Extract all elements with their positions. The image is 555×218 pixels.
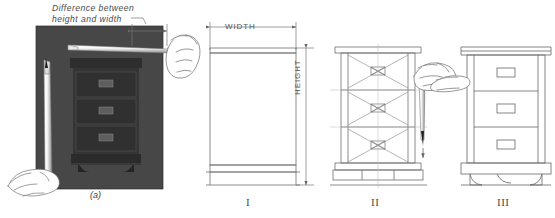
difference-note-line-1: Difference between	[52, 3, 134, 14]
panel-a-tag: (a)	[90, 190, 101, 200]
panel-iii-handle-1	[497, 68, 515, 77]
difference-note: Difference between height and width	[52, 3, 134, 24]
photo-handle-3	[99, 134, 113, 141]
panel-ii-guides	[330, 44, 427, 188]
photo-handle-1	[99, 80, 113, 87]
panel-i-tag: I	[246, 196, 250, 208]
panel-iii-chest	[461, 47, 551, 185]
panel-ii-plinth	[330, 163, 427, 185]
illustration-figure	[0, 0, 555, 218]
photo-handle-2	[99, 107, 113, 114]
panel-iii-foot-right	[530, 174, 542, 185]
panel-ii-drawing	[330, 44, 456, 188]
photo-plinth-shadow	[71, 163, 141, 165]
panel-i-drawing	[206, 22, 314, 185]
photo-hand-icon	[8, 169, 59, 196]
difference-note-line-2: height and width	[52, 14, 134, 25]
panel-iii-foot-left	[470, 174, 482, 185]
block-plinth	[210, 165, 296, 172]
panel-iii-plinth	[461, 163, 551, 174]
panel-iii-drawing	[461, 47, 551, 185]
panel-a-photograph	[8, 26, 168, 196]
width-label: WIDTH	[225, 22, 256, 31]
panel-iii-handle-2	[497, 104, 515, 113]
panel-iii-handle-3	[497, 140, 515, 149]
photo-plinth	[71, 154, 141, 163]
block-top-slab	[210, 48, 296, 53]
panel-iii-foot-centre-curve	[497, 174, 511, 183]
figure-canvas	[0, 0, 555, 218]
panel-iii-tag: III	[497, 196, 510, 208]
panel-i-block	[206, 48, 300, 185]
height-label: HEIGHT	[293, 59, 302, 95]
hand-grip-horizontal-pencil-icon	[166, 35, 200, 78]
photo-chest-top	[70, 58, 142, 68]
block-body	[210, 53, 296, 165]
photo-chest	[70, 58, 142, 172]
panel-iii-carcase	[467, 55, 545, 163]
panel-ii-tag: II	[371, 196, 379, 208]
